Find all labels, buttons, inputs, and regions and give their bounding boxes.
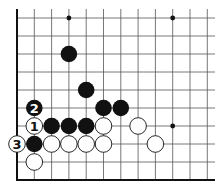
go-board-diagram: 213 (0, 0, 224, 191)
black-stone (113, 100, 130, 117)
white-stone-3: 3 (9, 136, 26, 153)
white-stone (61, 136, 78, 153)
star-point (67, 16, 72, 21)
move-number: 1 (30, 119, 39, 134)
board-edges (16, 9, 215, 181)
black-stone (78, 82, 95, 99)
black-stone (26, 136, 43, 153)
white-stone-1: 1 (26, 118, 43, 135)
star-point (170, 16, 175, 21)
star-point (170, 124, 175, 129)
white-stone (78, 136, 95, 153)
white-stone (95, 136, 112, 153)
black-stone (95, 100, 112, 117)
white-stone (95, 118, 112, 135)
move-number: 2 (30, 101, 39, 116)
move-number: 3 (12, 137, 21, 152)
black-stone (43, 118, 60, 135)
white-stone (43, 136, 60, 153)
black-stone (61, 118, 78, 135)
white-stone (130, 118, 147, 135)
black-stone (61, 46, 78, 63)
grid-lines (17, 9, 215, 180)
black-stone-2: 2 (26, 100, 43, 117)
white-stone (26, 154, 43, 171)
white-stone (147, 136, 164, 153)
black-stone (78, 118, 95, 135)
